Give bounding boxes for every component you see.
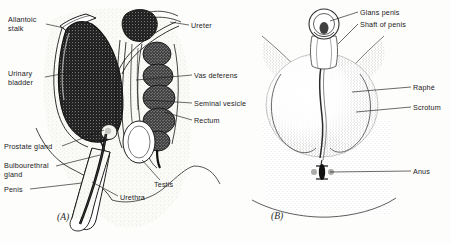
label-vas-deferens: Vas deferens bbox=[194, 72, 238, 81]
anatomy-figure bbox=[0, 0, 451, 243]
rectum-lobe-3 bbox=[143, 85, 175, 111]
label-glans-penis: Glans penis bbox=[360, 9, 400, 18]
label-scrotum: Scrotum bbox=[413, 104, 441, 113]
label-penis: Penis bbox=[4, 186, 23, 195]
label-bulbourethral-gland: Bulbourethral gland bbox=[4, 162, 49, 179]
label-urinary-bladder: Urinary bladder bbox=[8, 70, 33, 87]
panel-a-id: (A) bbox=[57, 212, 69, 222]
label-testis: Testis bbox=[154, 181, 173, 190]
label-rectum: Rectum bbox=[194, 117, 220, 126]
label-anus: Anus bbox=[413, 168, 430, 177]
prostate-gland-core bbox=[105, 128, 111, 134]
anus-shade-left bbox=[311, 169, 317, 175]
rectum-lobe-2 bbox=[143, 64, 173, 88]
label-seminal-vesicle: Seminal vesicle bbox=[194, 100, 246, 109]
panel-b-id: (B) bbox=[271, 211, 283, 221]
caption-strip bbox=[0, 230, 451, 243]
rectum-lobe-1 bbox=[143, 42, 171, 66]
upper-dark-mass bbox=[122, 10, 157, 42]
shaft-of-penis-shape bbox=[311, 36, 338, 69]
caption-partial-text bbox=[14, 231, 224, 240]
label-raphe: Raphé bbox=[413, 84, 435, 93]
label-ureter: Ureter bbox=[191, 22, 212, 31]
scrotum-right-highlight bbox=[324, 64, 376, 144]
label-urethra: Urethra bbox=[120, 194, 145, 203]
label-prostate-gland: Prostate gland bbox=[4, 143, 52, 152]
urethral-meatus bbox=[320, 22, 329, 34]
label-shaft-of-penis: Shaft of penis bbox=[360, 21, 406, 30]
label-allantoic-stalk: Allantoic stalk bbox=[8, 16, 36, 33]
